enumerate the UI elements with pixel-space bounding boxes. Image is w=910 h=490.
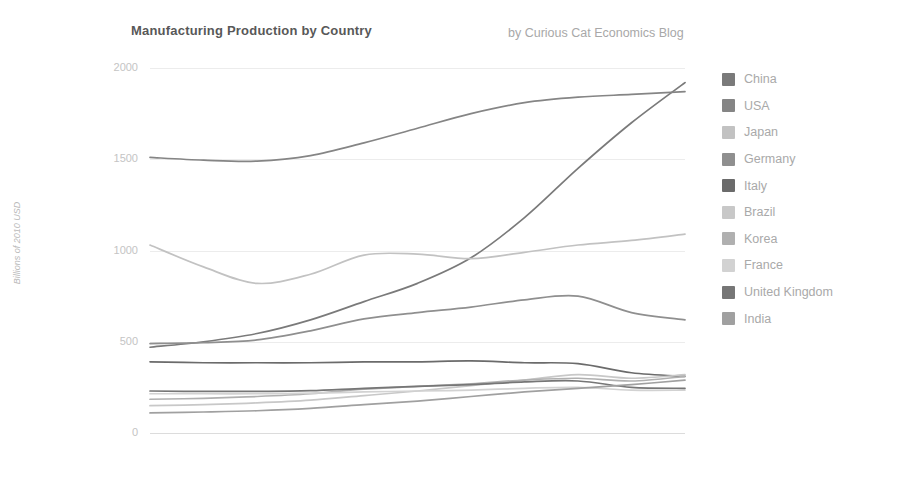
series-line-korea <box>150 376 685 399</box>
legend-label: United Kingdom <box>744 285 833 299</box>
legend-label: Japan <box>744 125 778 139</box>
legend-item-usa[interactable]: USA <box>722 93 902 120</box>
y-axis-tick-label: 1500 <box>78 152 138 164</box>
legend-label: China <box>744 72 777 86</box>
series-line-india <box>150 380 685 413</box>
legend-label: Brazil <box>744 205 775 219</box>
legend-swatch-icon <box>722 73 735 86</box>
legend-item-japan[interactable]: Japan <box>722 119 902 146</box>
series-line-japan <box>150 234 685 283</box>
plot-area: 0500100015002000 20002002200420062008201… <box>150 68 685 433</box>
y-axis-tick-label: 1000 <box>78 244 138 256</box>
legend-swatch-icon <box>722 126 735 139</box>
y-axis-tick-label: 2000 <box>78 61 138 73</box>
legend-swatch-icon <box>722 153 735 166</box>
legend-label: USA <box>744 99 770 113</box>
legend-swatch-icon <box>722 286 735 299</box>
legend-item-united-kingdom[interactable]: United Kingdom <box>722 279 902 306</box>
legend-label: France <box>744 258 783 272</box>
legend-item-china[interactable]: China <box>722 66 902 93</box>
legend-item-germany[interactable]: Germany <box>722 146 902 173</box>
legend-swatch-icon <box>722 312 735 325</box>
chart-legend: ChinaUSAJapanGermanyItalyBrazilKoreaFran… <box>722 66 902 332</box>
chart-container: Manufacturing Production by Country by C… <box>0 0 910 490</box>
legend-item-korea[interactable]: Korea <box>722 226 902 253</box>
legend-swatch-icon <box>722 99 735 112</box>
series-line-france <box>150 387 685 393</box>
gridline <box>150 433 685 434</box>
legend-swatch-icon <box>722 206 735 219</box>
y-axis-title: Billions of 2010 USD <box>12 153 22 333</box>
legend-item-france[interactable]: France <box>722 252 902 279</box>
y-axis-tick-label: 0 <box>78 426 138 438</box>
legend-label: Germany <box>744 152 795 166</box>
series-line-italy <box>150 361 685 377</box>
legend-swatch-icon <box>722 232 735 245</box>
series-line-germany <box>150 296 685 344</box>
series-line-usa <box>150 92 685 162</box>
chart-subtitle: by Curious Cat Economics Blog <box>508 26 684 40</box>
legend-label: Korea <box>744 232 777 246</box>
legend-item-brazil[interactable]: Brazil <box>722 199 902 226</box>
legend-label: Italy <box>744 179 767 193</box>
y-axis-tick-label: 500 <box>78 335 138 347</box>
legend-item-india[interactable]: India <box>722 305 902 332</box>
series-line-china <box>150 83 685 348</box>
chart-title: Manufacturing Production by Country <box>131 23 372 38</box>
legend-label: India <box>744 312 771 326</box>
legend-swatch-icon <box>722 179 735 192</box>
legend-swatch-icon <box>722 259 735 272</box>
legend-item-italy[interactable]: Italy <box>722 172 902 199</box>
series-lines <box>150 68 685 433</box>
